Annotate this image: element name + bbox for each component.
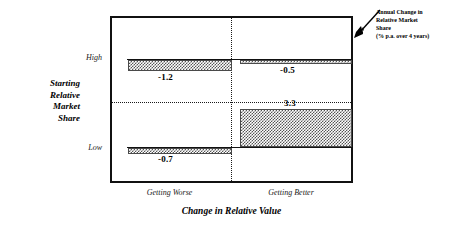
y-axis-title-line-4: Share [8, 113, 80, 125]
bar-high-getting-better [240, 60, 352, 64]
vertical-quadrant-divider [231, 18, 232, 181]
callout-line-4: (% p.a. over 4 years) [376, 32, 448, 40]
value-label-high-getting-worse: -1.2 [158, 72, 173, 82]
callout-line-2: Relative Market [376, 16, 448, 24]
x-tick-label-getting-better: Getting Better [229, 188, 353, 197]
x-axis-title: Change in Relative Value [110, 206, 353, 216]
y-axis-title-line-1: Starting [8, 78, 80, 90]
callout-line-3: Share [376, 24, 448, 32]
y-axis-title-line-2: Relative [8, 90, 80, 102]
baseline-low-right [231, 147, 353, 148]
y-axis-title-line-3: Market [8, 101, 80, 113]
y-axis-title: Starting Relative Market Share [8, 78, 80, 124]
bar-high-getting-worse [128, 60, 232, 71]
chart-page: Starting Relative Market Share High Low … [0, 0, 449, 229]
value-label-low-getting-worse: -0.7 [158, 154, 173, 164]
callout-line-1: Annual Change in [376, 8, 448, 16]
y-tick-label-low: Low [62, 143, 102, 152]
bar-low-getting-worse [128, 148, 232, 154]
callout-annotation: Annual Change in Relative Market Share (… [376, 8, 448, 40]
y-tick-label-high: High [62, 53, 102, 62]
horizontal-quadrant-divider [112, 102, 351, 103]
value-label-low-getting-better: 3.3 [284, 98, 296, 108]
bar-low-getting-better [240, 109, 352, 147]
x-tick-label-getting-worse: Getting Worse [110, 188, 229, 197]
value-label-high-getting-better: -0.5 [280, 65, 295, 75]
plot-area: -1.2 -0.5 -0.7 3.3 [110, 16, 353, 183]
